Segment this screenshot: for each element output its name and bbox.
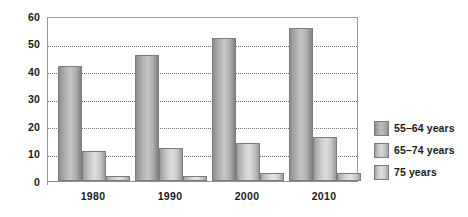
y-tick-label-60: 60 — [28, 12, 40, 22]
bars-layer — [48, 18, 357, 181]
x-tick-label-2010: 2010 — [288, 190, 360, 202]
legend-swatch-icon-65-74 — [374, 143, 389, 158]
y-tick-label-40: 40 — [28, 67, 40, 77]
bar-2010-75 — [337, 173, 361, 181]
bar-2010-55-64 — [289, 28, 313, 181]
y-tick-label-10: 10 — [28, 149, 40, 159]
bar-group-1980 — [58, 18, 130, 181]
legend-item-75[interactable]: 75 years — [374, 163, 455, 181]
y-axis: 60 50 40 30 20 10 0 — [0, 0, 46, 217]
legend-item-55-64[interactable]: 55–64 years — [374, 119, 455, 137]
x-tick-label-1980: 1980 — [57, 190, 129, 202]
legend: 55–64 years 65–74 years 75 years — [374, 119, 455, 185]
plot-area — [47, 17, 358, 182]
x-tick-label-2000: 2000 — [211, 190, 283, 202]
bar-1990-65-74 — [159, 148, 183, 181]
y-tick-label-50: 50 — [28, 39, 40, 49]
bar-1980-55-64 — [58, 66, 82, 182]
bar-1980-75 — [106, 176, 130, 182]
bar-chart: 60 50 40 30 20 10 0 — [0, 0, 468, 217]
bar-group-1990 — [135, 18, 207, 181]
legend-swatch-icon-55-64 — [374, 121, 389, 136]
bar-1990-55-64 — [135, 55, 159, 182]
legend-label-65-74: 65–74 years — [394, 144, 455, 156]
legend-label-55-64: 55–64 years — [394, 122, 455, 134]
bar-2000-75 — [260, 173, 284, 181]
legend-swatch-icon-75 — [374, 165, 389, 180]
bar-2000-55-64 — [212, 38, 236, 181]
bar-2010-65-74 — [313, 137, 337, 181]
bar-1990-75 — [183, 176, 207, 182]
bar-2000-65-74 — [236, 143, 260, 182]
bar-group-2000 — [212, 18, 284, 181]
legend-label-75: 75 years — [394, 166, 437, 178]
y-tick-label-20: 20 — [28, 122, 40, 132]
bar-1980-65-74 — [82, 151, 106, 181]
y-tick-label-0: 0 — [34, 177, 40, 187]
bar-group-2010 — [289, 18, 361, 181]
y-tick-label-30: 30 — [28, 94, 40, 104]
x-tick-label-1990: 1990 — [134, 190, 206, 202]
legend-item-65-74[interactable]: 65–74 years — [374, 141, 455, 159]
